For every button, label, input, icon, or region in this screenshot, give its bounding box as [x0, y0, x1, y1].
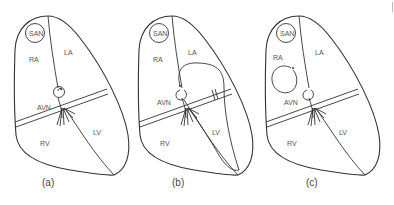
label-avn-b: AVN: [157, 99, 171, 106]
caption-a: (a): [42, 177, 54, 188]
heart-outline-b: [138, 16, 253, 175]
label-la-a: LA: [64, 49, 73, 56]
label-la-b: LA: [188, 49, 197, 56]
pathway-arrowhead-b: [179, 85, 181, 87]
label-san-c: SAN: [280, 30, 294, 37]
label-avn-a: AVN: [37, 104, 51, 111]
label-san-a: SAN: [29, 30, 43, 37]
label-lv-c: LV: [339, 129, 347, 136]
label-ra-b: RA: [153, 56, 163, 63]
page-edge-mark: [392, 2, 393, 12]
panel-c: SAN RA LA AVN RV LV (c): [265, 16, 380, 188]
caption-b: (b): [172, 177, 184, 188]
label-lv-b: LV: [212, 129, 220, 136]
atrial-reentry-loop-c: [272, 66, 297, 93]
caption-c: (c): [306, 177, 318, 188]
label-san-b: SAN: [153, 30, 167, 37]
label-ra-a: RA: [29, 56, 39, 63]
label-ra-c: RA: [273, 54, 283, 61]
heart-conduction-figure: SAN RA LA AVN RV LV (a) SAN RA LA AVN RV…: [0, 0, 394, 205]
label-avn-c: AVN: [284, 99, 298, 106]
reentry-arrowhead-c: [292, 67, 294, 69]
label-rv-b: RV: [160, 140, 170, 147]
label-la-c: LA: [315, 49, 324, 56]
label-rv-a: RV: [40, 140, 50, 147]
heart-outline-a: [14, 16, 129, 175]
avn-node-c: [303, 90, 313, 100]
label-lv-a: LV: [93, 129, 101, 136]
panel-a: SAN RA LA AVN RV LV (a): [14, 16, 129, 188]
label-rv-c: RV: [287, 140, 297, 147]
avn-node-a: [54, 87, 65, 98]
heart-outline-c: [265, 16, 380, 175]
reentry-arrowhead-a: [60, 88, 62, 90]
panel-b: SAN RA LA AVN RV LV (b): [138, 16, 253, 188]
avn-node-b: [176, 90, 186, 100]
